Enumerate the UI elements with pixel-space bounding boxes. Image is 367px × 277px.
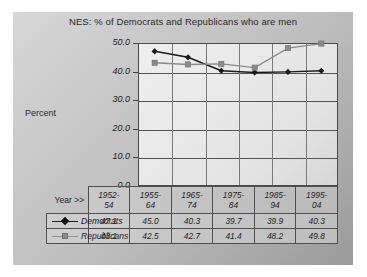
table-row: Democrats47.145.040.339.739.940.3 [47, 214, 338, 229]
series-line-democrats [155, 51, 322, 72]
category-label-top: 1955- [130, 190, 171, 200]
category-label-top: 1995- [296, 190, 337, 200]
data-point-democrats-4 [285, 69, 291, 75]
data-point-democrats-5 [318, 68, 324, 74]
data-cell: 49.8 [296, 229, 338, 244]
legend-marker-square-icon [62, 233, 68, 239]
category-label-bottom: 04 [296, 200, 337, 210]
series-overlay [138, 43, 338, 186]
data-point-democrats-2 [218, 68, 224, 74]
legend-swatch-democrats-icon [52, 217, 78, 226]
data-point-democrats-0 [152, 48, 158, 54]
legend-entry-democrats[interactable]: Democrats [47, 214, 89, 229]
data-table-wrapper: Year >>1952-541955-641965-741975-841985-… [46, 186, 338, 244]
data-cell: 42.7 [171, 229, 213, 244]
column-header-5: 1995-04 [296, 187, 338, 214]
year-axis-label: Year >> [47, 187, 89, 214]
data-cell: 40.3 [171, 214, 213, 229]
data-point-republicans-0 [152, 60, 157, 65]
data-point-democrats-1 [185, 54, 191, 60]
column-header-2: 1965-74 [171, 187, 213, 214]
data-point-republicans-4 [285, 46, 290, 51]
data-cell: 39.7 [213, 214, 255, 229]
data-cell: 41.4 [213, 229, 255, 244]
category-label-top: 1985- [255, 190, 296, 200]
data-cell: 40.3 [296, 214, 338, 229]
data-point-republicans-5 [319, 41, 324, 46]
data-cell: 45.0 [130, 214, 172, 229]
table-header-row: Year >>1952-541955-641965-741975-841985-… [47, 187, 338, 214]
y-tick-label: 20.0 [84, 123, 130, 133]
legend-marker-diamond-icon [61, 217, 69, 225]
column-header-3: 1975-84 [213, 187, 255, 214]
data-cell: 39.9 [254, 214, 296, 229]
y-tick-label: 50.0 [84, 37, 130, 47]
data-cell: 42.5 [130, 229, 172, 244]
column-header-0: 1952-54 [88, 187, 130, 214]
category-label-bottom: 84 [213, 200, 254, 210]
category-label-bottom: 74 [172, 200, 213, 210]
data-point-republicans-2 [219, 61, 224, 66]
legend-entry-republicans[interactable]: Republicans [47, 229, 89, 244]
category-label-top: 1975- [213, 190, 254, 200]
data-cell: 48.2 [254, 229, 296, 244]
y-tick-label: 40.0 [84, 66, 130, 76]
category-label-top: 1952- [89, 190, 130, 200]
data-point-republicans-3 [252, 65, 257, 70]
y-axis-label: Percent [25, 108, 56, 118]
y-tick-label: 10.0 [84, 151, 130, 161]
data-point-republicans-1 [185, 62, 190, 67]
category-label-bottom: 54 [89, 200, 130, 210]
legend-swatch-republicans-icon [52, 232, 78, 241]
column-header-1: 1955-64 [130, 187, 172, 214]
category-label-top: 1965- [172, 190, 213, 200]
category-label-bottom: 94 [255, 200, 296, 210]
column-header-4: 1985-94 [254, 187, 296, 214]
chart-container: NES: % of Democrats and Republicans who … [0, 0, 367, 277]
category-label-bottom: 64 [130, 200, 171, 210]
table-row: Republicans43.142.542.741.448.249.8 [47, 229, 338, 244]
chart-title: NES: % of Democrats and Republicans who … [13, 16, 353, 27]
data-table: Year >>1952-541955-641965-741975-841985-… [46, 186, 338, 244]
y-tick-label: 30.0 [84, 94, 130, 104]
